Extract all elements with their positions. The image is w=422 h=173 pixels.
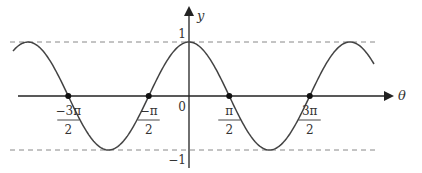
zero-crossing-point: [307, 93, 313, 99]
x-tick-denominator: 2: [145, 123, 153, 137]
zero-crossing-point: [146, 93, 152, 99]
x-tick-numerator: −3π: [55, 104, 81, 118]
cosine-chart: −3π2−π2π23π201−1yθ: [0, 0, 422, 173]
y-axis-label: y: [196, 8, 205, 23]
x-tick-label: π2: [218, 104, 240, 137]
x-axis-label: θ: [398, 88, 406, 103]
x-tick-numerator: 3π: [302, 104, 318, 118]
x-tick-label: −3π2: [55, 104, 81, 137]
x-tick-denominator: 2: [225, 123, 233, 137]
x-tick-denominator: 2: [306, 123, 314, 137]
y-tick-minus-1: −1: [168, 153, 186, 167]
x-tick-numerator: π: [225, 104, 233, 118]
x-tick-label: 3π2: [299, 104, 321, 137]
zero-crossing-point: [226, 93, 232, 99]
axis-labels: −3π2−π2π23π201−1yθ: [55, 8, 406, 167]
zero-crossing-point: [65, 93, 71, 99]
x-tick-numerator: −π: [140, 104, 158, 118]
y-tick-1: 1: [178, 27, 186, 41]
x-tick-denominator: 2: [64, 123, 72, 137]
origin-label: 0: [178, 100, 186, 114]
x-tick-label: −π2: [138, 104, 160, 137]
axes: [18, 8, 392, 168]
